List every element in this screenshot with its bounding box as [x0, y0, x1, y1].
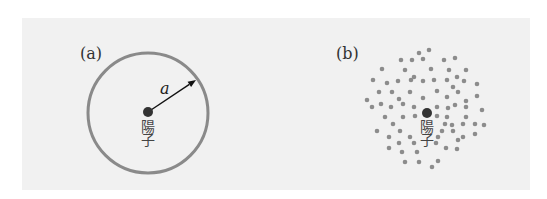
electron-dot: [442, 58, 447, 63]
electron-dot: [415, 150, 420, 155]
electron-dot: [464, 115, 469, 120]
electron-dot: [427, 48, 432, 53]
electron-dot: [475, 82, 480, 87]
electron-dot: [447, 68, 452, 73]
electron-dot: [375, 129, 380, 134]
electron-dot: [464, 68, 469, 73]
electron-dot: [399, 58, 404, 63]
electron-dot: [396, 79, 401, 84]
electron-dot: [461, 122, 466, 127]
electron-dot: [390, 90, 395, 95]
electron-dot: [409, 78, 414, 83]
electron-dot: [421, 79, 426, 84]
electron-dot: [421, 57, 426, 62]
electron-dot: [387, 146, 392, 151]
electron-dot: [450, 123, 455, 128]
electron-dot: [400, 150, 405, 155]
panel-b-label: (b): [336, 44, 359, 63]
electron-dot: [464, 99, 469, 104]
electron-dot: [430, 165, 435, 170]
electron-dot: [377, 90, 382, 95]
electron-dot: [435, 105, 440, 110]
electron-dot: [421, 96, 426, 101]
radius-label: a: [160, 79, 170, 98]
electron-dot: [403, 68, 408, 73]
electron-dot: [398, 129, 403, 134]
electron-dot: [410, 58, 415, 63]
electron-dot: [444, 146, 449, 151]
electron-dot: [365, 98, 370, 103]
electron-dot: [403, 160, 408, 165]
electron-dot: [445, 78, 450, 83]
electron-dot: [412, 105, 417, 110]
electron-dot: [417, 160, 422, 165]
electron-dot: [435, 89, 440, 94]
electron-dot: [383, 115, 388, 120]
electron-dot: [456, 90, 461, 95]
electron-dot: [461, 135, 466, 140]
electron-dot: [435, 114, 440, 119]
electron-dot: [446, 106, 451, 111]
electron-dot: [391, 122, 396, 127]
electron-dot: [380, 67, 385, 72]
ion-label-line2: 子: [420, 132, 434, 148]
electron-dot: [445, 95, 450, 100]
electron-dot: [455, 147, 460, 152]
electron-dot: [413, 114, 418, 119]
electron-dot: [445, 115, 450, 120]
electron-dot: [482, 123, 487, 128]
electron-dot: [440, 129, 445, 134]
electron-dot: [429, 67, 434, 72]
electron-dot: [387, 135, 392, 140]
electron-dot: [451, 85, 456, 90]
electron-dot: [371, 78, 376, 83]
electron-dot: [443, 122, 448, 127]
electron-dot: [480, 108, 485, 113]
electron-dot: [473, 122, 478, 127]
electron-dot: [408, 90, 413, 95]
figure: (a) a 陽 子 (b) 陽 子: [0, 0, 547, 199]
electron-dot: [453, 103, 458, 108]
electron-dot: [401, 115, 406, 120]
electron-dot: [436, 159, 441, 164]
panel-a-label: (a): [80, 44, 102, 63]
positive-ion-dot: [422, 108, 432, 118]
electron-dot: [432, 78, 437, 83]
electron-dot: [412, 141, 417, 146]
electron-dot: [436, 135, 441, 140]
electron-dot: [434, 141, 439, 146]
electron-dot: [397, 97, 402, 102]
electron-dot: [385, 81, 390, 86]
electron-dot: [370, 105, 375, 110]
electron-dot: [417, 51, 422, 56]
electron-dot: [389, 105, 394, 110]
electron-dot: [473, 132, 478, 137]
positive-ion-dot: [143, 107, 153, 117]
electron-dot: [397, 141, 402, 146]
electron-dot: [401, 102, 406, 107]
electron-dot: [408, 135, 413, 140]
electron-dot: [456, 138, 461, 143]
electron-dot: [455, 75, 460, 80]
ion-label-line2: 子: [141, 132, 155, 148]
electron-dot: [451, 129, 456, 134]
electron-dot: [379, 102, 384, 107]
electron-dot: [475, 94, 480, 99]
electron-dot: [462, 79, 467, 84]
electron-dot: [464, 105, 469, 110]
electron-dot: [453, 56, 458, 61]
